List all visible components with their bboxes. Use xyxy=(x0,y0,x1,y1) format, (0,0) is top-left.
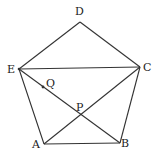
segment-EA xyxy=(19,69,44,144)
label-Q: Q xyxy=(46,77,55,90)
segment-EB xyxy=(19,69,120,143)
point-Q-dot xyxy=(42,86,45,89)
segment-EC xyxy=(19,67,140,69)
segment-DE xyxy=(19,22,80,69)
label-B: B xyxy=(121,137,129,150)
label-A: A xyxy=(31,138,41,151)
segment-BC xyxy=(120,67,140,143)
segment-CD xyxy=(80,22,140,67)
segment-AC xyxy=(44,67,140,144)
segment-AB xyxy=(44,143,120,144)
label-C: C xyxy=(143,61,151,74)
label-E: E xyxy=(7,63,15,76)
point-E-dot xyxy=(18,68,21,71)
label-P: P xyxy=(76,101,84,114)
label-D: D xyxy=(75,5,84,18)
pentagon-diagram: D E C Q P A B xyxy=(0,0,159,155)
